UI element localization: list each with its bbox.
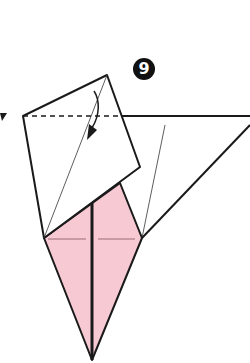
left-pointer-arrow-icon [0,113,7,121]
right-triangle-flap [121,116,250,238]
origami-step-diagram [0,0,250,363]
step-number-badge: 9 [133,58,155,80]
